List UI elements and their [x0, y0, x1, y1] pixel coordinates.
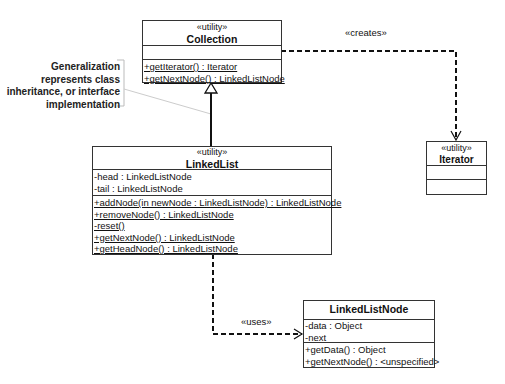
operation: +getNextNode() : LinkedListNode: [93, 232, 331, 244]
attribute: -head : LinkedListNode: [93, 171, 331, 183]
attributes-section: -data : Object -next: [304, 319, 434, 342]
attribute: -tail : LinkedListNode: [93, 183, 331, 195]
note-line: represents class: [0, 74, 120, 87]
operation: +removeNode() : LinkedListNode: [93, 209, 331, 221]
operation: +getNextNode() : <unspecified>: [304, 356, 434, 368]
class-header: LinkedListNode: [304, 301, 434, 319]
operation: +getData() : Object: [304, 344, 434, 356]
uses-label: «uses»: [241, 316, 272, 327]
attributes-section: [143, 45, 281, 59]
class-header: «utility» Collection: [143, 21, 281, 45]
operations-section: +getIterator() : Iterator +getNextNode()…: [143, 59, 281, 84]
attribute: -data : Object: [304, 320, 434, 332]
note-line: implementation: [0, 99, 120, 112]
operation: +addNode(in newNode : LinkedListNode) : …: [93, 197, 331, 209]
operation: +getHeadNode() : LinkedListNode: [93, 243, 331, 255]
operation: +getIterator() : Iterator: [143, 61, 281, 73]
note-connector: [124, 89, 211, 114]
class-name: LinkedListNode: [304, 303, 434, 315]
operation: -reset(): [93, 220, 331, 232]
class-collection[interactable]: «utility» Collection +getIterator() : It…: [142, 20, 282, 83]
class-linked-list[interactable]: «utility» LinkedList -head : LinkedListN…: [92, 146, 332, 255]
operation: +getNextNode() : LinkedListNode: [143, 73, 281, 85]
attributes-section: -head : LinkedListNode -tail : LinkedLis…: [93, 169, 331, 195]
generalization-arrowhead: [205, 83, 217, 93]
operations-section: +addNode(in newNode : LinkedListNode) : …: [93, 195, 331, 255]
stereotype: «utility»: [143, 22, 281, 33]
creates-dependency-line: [281, 51, 456, 140]
class-header: «utility» LinkedList: [93, 147, 331, 169]
attributes-section: [427, 165, 486, 179]
operations-section: [427, 179, 486, 195]
generalization-note: Generalization represents class inherita…: [0, 61, 120, 111]
note-line: inheritance, or interface: [0, 86, 120, 99]
operations-section: +getData() : Object +getNextNode() : <un…: [304, 342, 434, 367]
class-name: Collection: [143, 33, 281, 45]
class-header: «utility» Iterator: [427, 142, 486, 165]
class-linked-list-node[interactable]: LinkedListNode -data : Object -next +get…: [303, 300, 435, 368]
stereotype: «utility»: [93, 147, 331, 158]
stereotype: «utility»: [427, 143, 486, 154]
note-line: Generalization: [0, 61, 120, 74]
class-iterator[interactable]: «utility» Iterator: [426, 141, 487, 195]
creates-label: «creates»: [345, 27, 387, 38]
